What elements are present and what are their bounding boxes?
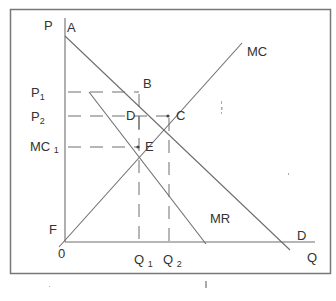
demand-curve-label: D <box>297 228 306 243</box>
x-axis-label: Q <box>307 250 317 265</box>
point-d-label: D <box>126 108 135 123</box>
point-a-label: A <box>67 20 76 35</box>
point-c-marker <box>166 114 169 117</box>
diagram-frame <box>11 10 331 274</box>
point-e-marker <box>136 145 139 148</box>
point-e-label: E <box>145 139 154 154</box>
point-c-label: C <box>176 108 185 123</box>
mr-curve-label: MR <box>210 211 230 226</box>
point-b-label: B <box>143 76 152 91</box>
point-f-label: F <box>49 222 57 237</box>
y-axis-label: P <box>44 18 53 33</box>
economics-diagram: P Q 0 A B C D E F MC MR D P1 P2 MC 1 Q 1… <box>0 0 336 301</box>
origin-label: 0 <box>58 246 65 261</box>
mc-curve-label: MC <box>247 44 267 59</box>
